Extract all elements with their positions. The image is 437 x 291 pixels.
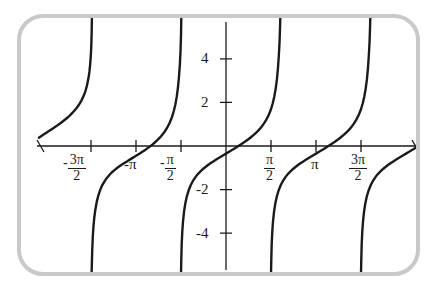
minus-sign: - bbox=[63, 155, 68, 171]
fraction-denominator: 2 bbox=[349, 168, 367, 184]
fraction-numerator: 3π bbox=[349, 153, 367, 168]
figure-canvas: 4 2 -2 -4 -3π2 -π -π2 π2 π 3π2 bbox=[0, 0, 437, 291]
minus-sign: - bbox=[160, 155, 165, 171]
fraction: 3π2 bbox=[349, 153, 367, 183]
fraction-numerator: π bbox=[165, 153, 176, 168]
x-tick-label-neg-pi: -π bbox=[124, 157, 137, 172]
fraction-numerator: 3π bbox=[68, 153, 86, 168]
fraction-denominator: 2 bbox=[165, 168, 176, 184]
fraction: 3π2 bbox=[68, 153, 86, 183]
y-tick-label-2: 2 bbox=[201, 95, 209, 110]
tangent-branch bbox=[361, 146, 418, 274]
x-tick-label-pi-over-2: π2 bbox=[264, 153, 275, 183]
fraction-numerator: π bbox=[264, 153, 275, 168]
x-tick-label-3pi-over-2: 3π2 bbox=[349, 153, 367, 183]
x-tick-label-neg-pi-over-2: -π2 bbox=[160, 153, 176, 183]
y-tick-label-neg4: -4 bbox=[196, 226, 209, 241]
fraction-denominator: 2 bbox=[264, 168, 275, 184]
fraction: π2 bbox=[264, 153, 275, 183]
tangent-graph bbox=[0, 0, 437, 291]
tangent-branch bbox=[39, 18, 92, 138]
fraction: π2 bbox=[165, 153, 176, 183]
fraction-denominator: 2 bbox=[68, 168, 86, 184]
y-tick-label-neg2: -2 bbox=[196, 182, 209, 197]
y-tick-label-4: 4 bbox=[201, 51, 209, 66]
x-tick-label-pi: π bbox=[311, 157, 319, 172]
x-tick-label-neg-3pi-over-2: -3π2 bbox=[63, 153, 86, 183]
